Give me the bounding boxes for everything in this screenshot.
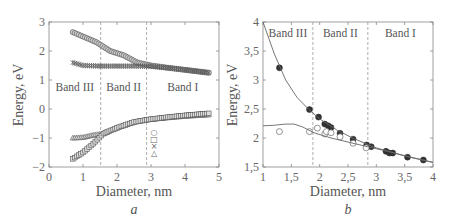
plot-area-b <box>263 22 433 167</box>
x-tick-label: 3 <box>373 170 379 184</box>
caption-a: a <box>131 202 138 217</box>
x-tick-label: 2 <box>317 170 323 184</box>
y-tick-label: 4 <box>253 15 259 29</box>
fit-curve <box>263 124 433 162</box>
band-label: Band II <box>323 27 358 39</box>
y-tick-label: −1 <box>32 131 45 145</box>
y-tick-label: 2,5 <box>244 102 259 116</box>
y-tick-label: 3,5 <box>244 44 259 58</box>
y-tick-label: 2 <box>39 44 45 58</box>
panel-a: 012345−2−10123 Band IIIBand IIBand I ○□×… <box>11 15 222 217</box>
y-axis-label-b: Energy, eV <box>225 64 240 127</box>
y-tick-label: 2 <box>253 131 259 145</box>
x-tick-label: 2,5 <box>341 170 356 184</box>
data-point <box>314 125 320 131</box>
panel-b: 11,522,533,541,522,533,54 Band IIIBand I… <box>225 15 436 217</box>
x-tick-label: 5 <box>216 170 222 184</box>
y-tick-label: 3 <box>39 15 45 29</box>
data-point <box>276 129 282 135</box>
y-tick-label: 1,5 <box>244 160 259 174</box>
band-label: Band II <box>106 81 141 93</box>
x-tick-label: 0 <box>46 170 52 184</box>
plot-area-a <box>49 22 219 167</box>
x-tick-label: 4 <box>430 170 436 184</box>
x-tick-label: 3 <box>148 170 154 184</box>
x-tick-label: 1,5 <box>284 170 299 184</box>
x-axis-label-b: Diameter, nm <box>310 184 387 199</box>
band-label: Band III <box>269 27 308 39</box>
y-tick-label: 1 <box>39 73 45 87</box>
x-tick-label: 1 <box>260 170 266 184</box>
band-label: Band I <box>385 27 416 39</box>
fit-curve <box>263 22 433 162</box>
data-point <box>337 134 343 140</box>
legend-symbol: △ <box>151 149 158 158</box>
band-label: Band III <box>56 81 95 93</box>
data-point <box>207 111 212 116</box>
y-tick-label: 3 <box>253 73 259 87</box>
y-tick-label: 0 <box>39 102 45 116</box>
x-tick-label: 3,5 <box>397 170 412 184</box>
band-label: Band I <box>167 81 198 93</box>
figure: 012345−2−10123 Band IIIBand IIBand I ○□×… <box>0 0 455 222</box>
caption-b: b <box>345 202 352 217</box>
y-tick-label: −2 <box>32 160 45 174</box>
x-tick-label: 1 <box>80 170 86 184</box>
y-axis-label-a: Energy, eV <box>11 64 26 127</box>
data-point <box>328 130 334 136</box>
x-tick-label: 2 <box>114 170 120 184</box>
x-tick-label: 4 <box>182 170 188 184</box>
x-axis-label-a: Diameter, nm <box>96 184 173 199</box>
